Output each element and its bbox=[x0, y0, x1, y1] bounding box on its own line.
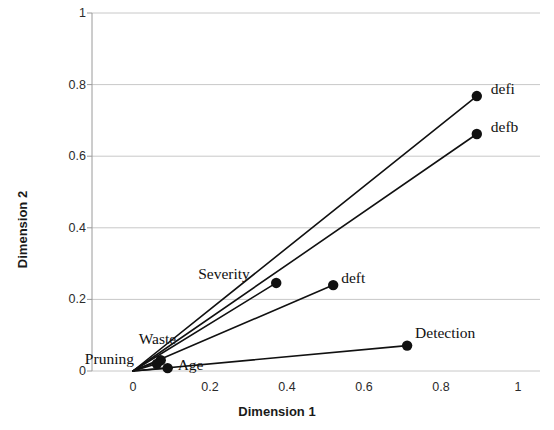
y-axis-tick-label: 0.4 bbox=[42, 221, 86, 235]
vector-line bbox=[133, 346, 407, 371]
x-axis-tick-label: 0.2 bbox=[201, 380, 218, 394]
y-axis-tick-label: 0.6 bbox=[42, 149, 86, 163]
data-point-label: Pruning bbox=[85, 350, 134, 368]
axis-lines-group bbox=[87, 13, 92, 371]
x-axis-tick-label: 0.4 bbox=[278, 380, 295, 394]
x-axis-tick-label: 0.8 bbox=[432, 380, 449, 394]
data-point-label: Waste bbox=[139, 330, 177, 348]
data-point-label: Severity bbox=[198, 265, 250, 283]
x-axis-tick-label: 0 bbox=[130, 380, 137, 394]
y-axis-tick-label: 0.8 bbox=[42, 78, 86, 92]
data-point-label: deft bbox=[341, 269, 365, 287]
gridlines-group bbox=[92, 13, 540, 371]
data-point-label: defb bbox=[491, 118, 519, 136]
y-axis-tick-label: 0 bbox=[42, 364, 86, 378]
y-axis-tick-label: 0.2 bbox=[42, 292, 86, 306]
x-axis-title: Dimension 1 bbox=[0, 404, 554, 419]
data-point-marker bbox=[472, 129, 482, 139]
data-point-marker bbox=[271, 278, 281, 288]
x-axis-tick-label: 0.6 bbox=[355, 380, 372, 394]
data-point-marker bbox=[152, 359, 162, 369]
y-axis-tick-label: 1 bbox=[42, 6, 86, 20]
data-point-marker bbox=[328, 280, 338, 290]
data-point-label: defi bbox=[491, 80, 515, 98]
x-axis-tick-label: 1 bbox=[515, 380, 522, 394]
data-point-marker bbox=[402, 340, 412, 350]
scatter-chart-figure: 00.20.40.60.8100.20.40.60.81 defidefbdef… bbox=[0, 0, 554, 430]
data-point-marker bbox=[162, 363, 172, 373]
y-axis-title: Dimension 2 bbox=[15, 160, 30, 300]
data-point-label: Age bbox=[178, 356, 204, 374]
vector-line bbox=[133, 283, 276, 371]
data-point-label: Detection bbox=[415, 324, 475, 342]
data-point-marker bbox=[472, 91, 482, 101]
